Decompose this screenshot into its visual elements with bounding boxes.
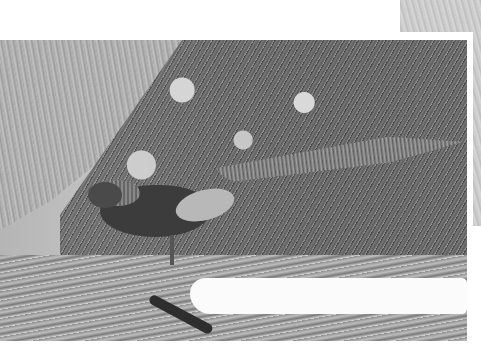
snow-patch — [190, 278, 467, 314]
pheasant-leg — [170, 235, 174, 265]
pheasant-head — [88, 182, 122, 208]
main-photo — [0, 40, 467, 341]
